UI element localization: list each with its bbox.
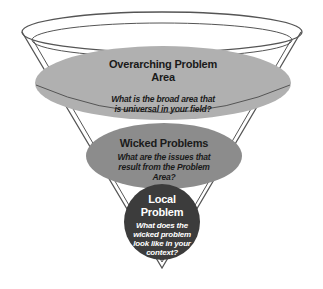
level3-title-line2: Problem <box>124 206 200 219</box>
level3-question-line3: look like in your <box>124 239 200 248</box>
level1-title-line2: Area <box>80 71 246 84</box>
level1-title-line1: Overarching Problem <box>80 58 246 71</box>
level3-question-line4: context? <box>124 248 200 257</box>
level3-title: Local Problem <box>124 193 200 219</box>
level2-question-line1: What are the issues that <box>100 152 228 162</box>
level2-question-line3: Area? <box>100 172 228 182</box>
level3-question: What does the wicked problem look like i… <box>124 221 200 257</box>
level3-question-line1: What does the <box>124 221 200 230</box>
level3-question-line2: wicked problem <box>124 230 200 239</box>
level2-question: What are the issues that result from the… <box>100 152 228 182</box>
level1-question-line1: What is the broad area that <box>80 94 246 104</box>
level3-title-line1: Local <box>124 193 200 206</box>
funnel-rim-outer <box>22 12 302 52</box>
level2-question-line2: result from the Problem <box>100 162 228 172</box>
level1-question: What is the broad area that is universal… <box>80 94 246 114</box>
level1-question-line2: is universal in your field? <box>80 104 246 114</box>
level2-title: Wicked Problems <box>100 137 228 150</box>
level1-title: Overarching Problem Area <box>80 58 246 84</box>
